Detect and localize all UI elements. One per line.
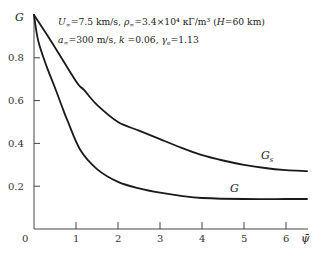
series-label-g: G — [230, 182, 239, 195]
y-axis-ticks: 0.20.40.60.8 — [8, 52, 40, 191]
x-tick-label: 1 — [73, 233, 79, 244]
line-chart: 0.20.40.60.8 123456 G 0 ψ̄ Gs G U∞=7.5 k… — [0, 0, 321, 256]
annotation-line-2: a∞=300 m/s, k =0.06, γe=1.13 — [58, 34, 199, 46]
y-axis-label: G — [15, 11, 24, 24]
x-tick-label: 5 — [241, 233, 247, 244]
annotation-line-1: U∞=7.5 km/s, ρ∞=3.4×10⁴ кΓ/m³ (H=60 km) — [58, 16, 265, 28]
series-label-gs: Gs — [261, 149, 274, 164]
y-tick-label: 0.8 — [8, 52, 24, 63]
origin-label: 0 — [22, 233, 28, 244]
x-axis-ticks: 123456 — [73, 222, 289, 244]
y-tick-label: 0.2 — [8, 181, 24, 192]
x-tick-label: 3 — [157, 233, 163, 244]
x-tick-label: 4 — [199, 233, 205, 244]
x-axis-label: ψ̄ — [301, 232, 310, 245]
y-tick-label: 0.6 — [8, 95, 24, 106]
x-tick-label: 2 — [115, 233, 121, 244]
x-tick-label: 6 — [283, 233, 289, 244]
axes — [34, 14, 308, 229]
y-tick-label: 0.4 — [8, 138, 24, 149]
